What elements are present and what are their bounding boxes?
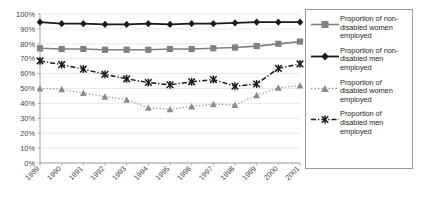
y-tick-label: 30% (20, 114, 35, 123)
y-tick-label: 80% (20, 40, 35, 49)
data-marker (232, 44, 238, 50)
data-marker (58, 86, 65, 92)
data-marker (167, 21, 174, 28)
series-non-disabled-men (37, 19, 304, 28)
y-tick-label: 70% (20, 54, 35, 63)
data-marker (254, 43, 260, 49)
data-marker (189, 46, 195, 52)
data-marker (275, 19, 282, 26)
x-tick-label: 2000 (262, 164, 280, 182)
series-line-disabled-women (40, 86, 300, 110)
legend-item-disabled-women: Proportion of disabled women employed (310, 79, 409, 105)
x-tick-label: 1995 (153, 164, 171, 182)
data-marker (102, 47, 108, 53)
legend-label-non-disabled-men: Proportion of non-disabled men employed (340, 47, 409, 73)
data-marker (123, 21, 130, 28)
y-tick-label: 90% (20, 25, 35, 34)
data-marker (297, 38, 303, 44)
data-marker (167, 106, 174, 112)
data-marker (210, 45, 216, 51)
x-tick-label: 1998 (218, 164, 236, 182)
data-marker (253, 19, 260, 26)
legend-item-disabled-men: Proportion of disabled men employed (310, 110, 409, 136)
y-tick-label: 10% (20, 144, 35, 153)
legend-label-disabled-women: Proportion of disabled women employed (340, 79, 409, 105)
legend-item-non-disabled-men: Proportion of non-disabled men employed (310, 47, 409, 73)
data-marker (145, 47, 151, 53)
data-marker (253, 92, 260, 98)
legend-swatch-non-disabled-men (310, 48, 340, 59)
y-tick-label: 50% (20, 84, 35, 93)
data-marker (188, 20, 195, 27)
x-tick-label: 2001 (283, 164, 301, 182)
data-marker (210, 20, 217, 27)
data-marker (58, 20, 65, 27)
legend-item-non-disabled-women: Proportion of non-disabled women employe… (310, 15, 409, 41)
y-tick-label: 100% (16, 10, 35, 19)
x-tick-label: 1996 (175, 164, 193, 182)
data-marker (297, 19, 304, 26)
legend-label-non-disabled-women: Proportion of non-disabled women employe… (340, 15, 409, 41)
x-tick-label: 1997 (197, 164, 215, 182)
data-marker (80, 90, 87, 96)
data-marker (275, 41, 281, 47)
y-tick-label: 20% (20, 129, 35, 138)
legend-swatch-non-disabled-women (310, 16, 340, 27)
x-tick-label: 1999 (240, 164, 258, 182)
x-tick-label: 1992 (88, 164, 106, 182)
data-marker (37, 19, 44, 26)
data-marker (102, 21, 109, 28)
y-tick-label: 60% (20, 69, 35, 78)
legend-label-disabled-men: Proportion of disabled men employed (340, 110, 409, 136)
data-marker (37, 45, 43, 51)
employment-line-chart: 0%10%20%30%40%50%60%70%80%90%100%1989199… (0, 0, 421, 199)
data-marker (145, 20, 152, 27)
data-marker (275, 84, 282, 90)
x-tick-label: 1990 (45, 164, 63, 182)
x-tick-label: 1991 (67, 164, 85, 182)
data-marker (80, 46, 86, 52)
x-tick-label: 1994 (132, 164, 150, 182)
data-marker (124, 47, 130, 53)
data-marker (232, 19, 239, 26)
series-non-disabled-women (37, 38, 303, 52)
y-tick-label: 40% (20, 99, 35, 108)
chart-legend: Proportion of non-disabled women employe… (305, 9, 413, 169)
x-tick-label: 1993 (110, 164, 128, 182)
legend-swatch-disabled-men (310, 111, 340, 122)
data-marker (297, 82, 304, 88)
data-marker (59, 46, 65, 52)
data-marker (167, 46, 173, 52)
data-marker (123, 96, 130, 102)
legend-swatch-disabled-women (310, 80, 340, 91)
data-marker (80, 20, 87, 27)
